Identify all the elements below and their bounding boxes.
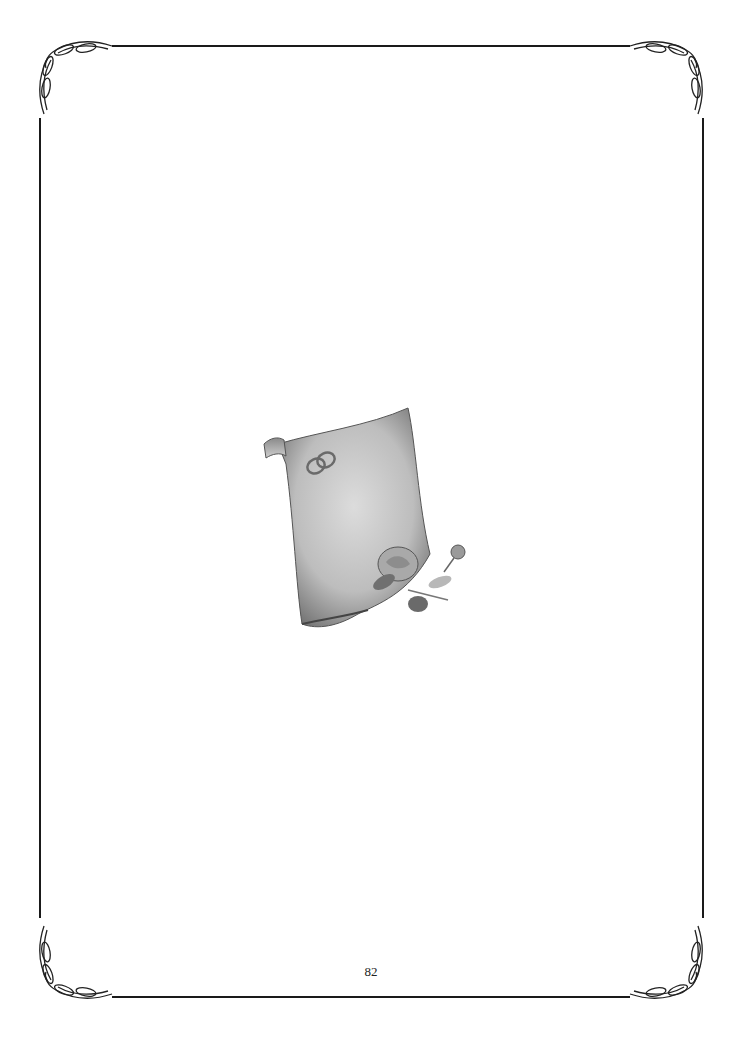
flourish-top-right-icon <box>628 36 708 116</box>
scroll-illustration <box>258 404 480 634</box>
border-bottom <box>112 996 630 998</box>
border-left <box>39 118 41 918</box>
page-number: 82 <box>0 964 742 980</box>
border-top <box>112 45 630 47</box>
scroll-icon <box>264 408 430 627</box>
flourish-top-left-icon <box>34 36 114 116</box>
border-right <box>702 118 704 918</box>
